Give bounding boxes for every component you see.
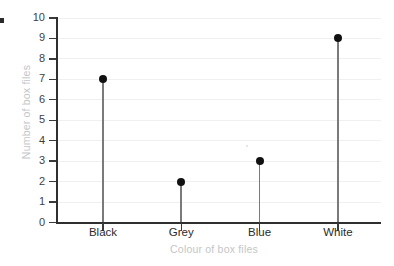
data-point-white (334, 34, 342, 42)
scan-speck (246, 145, 248, 147)
stem-blue (259, 161, 261, 222)
y-tick-label: 7 (5, 73, 45, 84)
x-axis-title: Colour of box files (48, 243, 380, 255)
gridline (57, 161, 381, 162)
gridline (57, 140, 381, 141)
gridline (57, 99, 381, 100)
data-point-blue (256, 157, 264, 165)
y-tick-mark (49, 79, 56, 80)
gridline (57, 120, 381, 121)
y-tick-mark (49, 17, 56, 18)
stem-white (337, 38, 339, 222)
gridline (57, 18, 381, 19)
y-tick-label: 8 (5, 53, 45, 64)
stem-grey (180, 182, 182, 223)
y-tick-mark (49, 120, 56, 121)
x-tick-label-blue: Blue (220, 226, 300, 238)
y-tick-mark (49, 181, 56, 182)
stem-plot-chart: Number of box files Colour of box files … (0, 0, 394, 266)
y-tick-mark (49, 222, 56, 223)
y-tick-label: 4 (5, 135, 45, 146)
gridline (57, 58, 381, 59)
crop-artifact (0, 18, 4, 23)
y-tick-label: 0 (5, 217, 45, 228)
y-axis-line (56, 17, 58, 223)
y-tick-mark (49, 38, 56, 39)
y-tick-label: 5 (5, 114, 45, 125)
x-tick-label-white: White (298, 226, 378, 238)
y-tick-label: 1 (5, 196, 45, 207)
gridline (57, 202, 381, 203)
y-tick-label: 2 (5, 176, 45, 187)
y-tick-mark (49, 201, 56, 202)
y-tick-label: 9 (5, 32, 45, 43)
y-tick-label: 3 (5, 155, 45, 166)
y-tick-label: 10 (5, 12, 45, 23)
data-point-grey (177, 178, 185, 186)
stem-black (102, 79, 104, 222)
y-tick-mark (49, 99, 56, 100)
y-tick-mark (49, 140, 56, 141)
x-tick-label-black: Black (63, 226, 143, 238)
data-point-black (99, 75, 107, 83)
y-tick-mark (49, 160, 56, 161)
x-tick-label-grey: Grey (141, 226, 221, 238)
x-axis-line (56, 222, 381, 224)
gridline (57, 181, 381, 182)
y-tick-mark (49, 58, 56, 59)
y-tick-label: 6 (5, 94, 45, 105)
gridline (57, 38, 381, 39)
